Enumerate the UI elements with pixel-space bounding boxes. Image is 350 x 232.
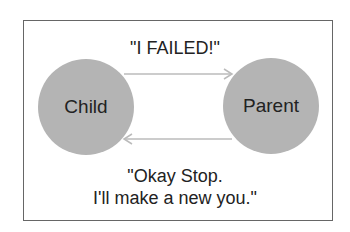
node-parent: Parent [223,58,319,154]
edge-label-okay-stop: "Okay Stop. [0,164,350,188]
node-child: Child [38,59,134,155]
arrow-parent-to-child [124,134,232,144]
node-child-label: Child [64,96,107,118]
arrow-child-to-parent [124,69,232,79]
edge-label-new-you: I'll make a new you." [0,186,350,210]
node-parent-label: Parent [243,95,299,117]
